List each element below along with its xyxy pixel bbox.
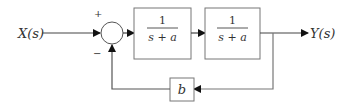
feedback-block: b [170,78,194,101]
output-label: Y(s) [310,26,335,41]
feedback-gain-label: b [178,82,186,97]
summing-junction [101,22,123,44]
input-label: X(s) [17,26,44,41]
block1-denominator: s + a [148,31,176,44]
forward-block-1: 1 s + a [134,8,191,59]
forward-block-2: 1 s + a [205,8,260,59]
block2-denominator: s + a [218,31,246,44]
block-diagram: X(s) + − 1 s + a 1 s + a Y(s) b [0,0,340,108]
block2-numerator: 1 [229,14,236,27]
block1-numerator: 1 [159,14,166,27]
minus-sign: − [93,48,101,59]
plus-sign: + [94,8,102,19]
